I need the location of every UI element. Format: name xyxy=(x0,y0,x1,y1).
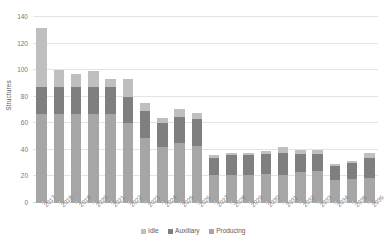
y-tick-label: 120 xyxy=(17,40,28,47)
bar-segment-idle xyxy=(36,28,47,88)
legend-item-producing[interactable]: Producing xyxy=(209,228,246,235)
bar-segment-idle xyxy=(140,103,151,111)
bar-segment-auxiliary xyxy=(261,154,272,174)
bar-segment-producing xyxy=(123,123,134,203)
bar-segment-idle xyxy=(278,147,289,152)
bar-group xyxy=(88,17,99,203)
bar-segment-auxiliary xyxy=(123,97,134,124)
y-tick-label: 80 xyxy=(21,93,28,100)
y-tick-label: 60 xyxy=(21,120,28,127)
chart-legend: IdleAuxiliaryProducing xyxy=(0,228,386,235)
bar-segment-auxiliary xyxy=(364,158,375,178)
bar-segment-auxiliary xyxy=(140,111,151,138)
legend-swatch-icon xyxy=(168,229,173,234)
y-tick-label: 140 xyxy=(17,14,28,21)
bar-group xyxy=(157,17,168,203)
bar-segment-idle xyxy=(192,113,203,120)
bar-group xyxy=(364,17,375,203)
bar-group xyxy=(71,17,82,203)
bar-segment-idle xyxy=(174,109,185,117)
bar-segment-producing xyxy=(36,114,47,203)
bar-group xyxy=(54,17,65,203)
bar-segment-producing xyxy=(174,143,185,203)
bar-group xyxy=(209,17,220,203)
bar-segment-auxiliary xyxy=(54,87,65,114)
bar-segment-idle xyxy=(243,153,254,156)
bar-segment-auxiliary xyxy=(157,123,168,147)
bar-group xyxy=(347,17,358,203)
stacked-bar-chart: Structures 020406080100120140 2017201820… xyxy=(0,0,386,248)
x-axis-tick-labels: 2017201820192020202120222023202420252026… xyxy=(33,204,378,230)
bar-group xyxy=(261,17,272,203)
bar-group xyxy=(278,17,289,203)
bar-group xyxy=(174,17,185,203)
bar-segment-auxiliary xyxy=(71,87,82,114)
bar-segment-idle xyxy=(71,74,82,87)
bar-segment-idle xyxy=(209,155,220,158)
bar-segment-idle xyxy=(295,150,306,154)
y-tick-label: 40 xyxy=(21,147,28,154)
bar-segment-idle xyxy=(88,71,99,87)
bar-segment-idle xyxy=(330,164,341,165)
bar-segment-auxiliary xyxy=(105,87,116,114)
bar-group xyxy=(226,17,237,203)
bar-segment-auxiliary xyxy=(36,87,47,114)
bar-segment-auxiliary xyxy=(295,154,306,173)
bar-group xyxy=(36,17,47,203)
bar-segment-idle xyxy=(54,70,65,87)
bar-segment-idle xyxy=(226,153,237,156)
bar-segment-producing xyxy=(157,147,168,203)
bar-segment-auxiliary xyxy=(226,155,237,175)
bar-group xyxy=(192,17,203,203)
y-axis-tick-labels: 020406080100120140 xyxy=(0,17,31,203)
bar-group xyxy=(123,17,134,203)
y-tick-label: 20 xyxy=(21,173,28,180)
bar-segment-idle xyxy=(105,79,116,87)
bar-segment-producing xyxy=(192,146,203,203)
bar-group xyxy=(312,17,323,203)
legend-swatch-icon xyxy=(209,229,214,234)
bar-group xyxy=(105,17,116,203)
bar-segment-idle xyxy=(347,161,358,164)
bar-segment-producing xyxy=(140,138,151,203)
bar-segment-idle xyxy=(312,150,323,154)
legend-label: Producing xyxy=(216,228,245,235)
bar-segment-auxiliary xyxy=(330,166,341,181)
bar-segment-producing xyxy=(54,114,65,203)
bar-segment-idle xyxy=(123,79,134,96)
bar-segment-auxiliary xyxy=(174,117,185,144)
bar-group xyxy=(330,17,341,203)
bar-group xyxy=(295,17,306,203)
y-tick-label: 100 xyxy=(17,67,28,74)
bar-segment-auxiliary xyxy=(243,155,254,175)
bar-segment-producing xyxy=(71,114,82,203)
bar-segment-auxiliary xyxy=(209,158,220,175)
bar-segment-producing xyxy=(88,114,99,203)
legend-swatch-icon xyxy=(141,229,146,234)
legend-item-idle[interactable]: Idle xyxy=(141,228,159,235)
legend-label: Idle xyxy=(148,228,158,235)
bar-segment-auxiliary xyxy=(278,153,289,176)
y-tick-label: 0 xyxy=(24,200,28,207)
legend-item-auxiliary[interactable]: Auxiliary xyxy=(168,228,200,235)
bar-segment-auxiliary xyxy=(88,87,99,114)
bar-segment-auxiliary xyxy=(347,163,358,179)
bar-group xyxy=(243,17,254,203)
bar-segment-auxiliary xyxy=(192,119,203,146)
bar-segment-idle xyxy=(364,153,375,158)
plot-area xyxy=(33,17,378,203)
bar-group xyxy=(140,17,151,203)
bar-segment-auxiliary xyxy=(312,154,323,171)
bar-segment-idle xyxy=(261,151,272,154)
bar-series-container xyxy=(33,17,378,203)
bar-segment-producing xyxy=(105,114,116,203)
bar-segment-idle xyxy=(157,118,168,123)
legend-label: Auxiliary xyxy=(175,228,200,235)
